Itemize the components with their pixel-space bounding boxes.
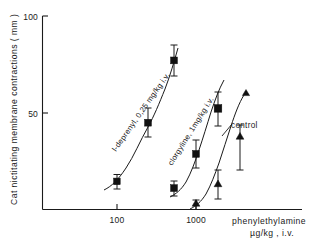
clorgyline-marker-3 [214,105,222,113]
clorgyline-point-3 [214,92,222,126]
control-point-4 [242,90,249,96]
x-axis-ticks: 100 1000 [110,204,206,225]
clorgyline-marker-2 [193,151,200,158]
control-marker-3 [236,133,244,140]
deprenyl-marker-3 [171,57,178,64]
series-clorgyline: clorgyline, 1mg/kg i.v. [166,80,224,197]
x-tick-label-100: 100 [110,215,125,225]
x-tick-label-1000: 1000 [186,215,206,225]
clorgyline-point-1 [171,181,178,196]
y-axis-ticks: 100 50 [23,12,48,119]
control-marker-2 [214,180,222,187]
control-marker-4 [242,90,249,96]
dose-response-chart: 100 50 100 1000 Cat nictitating membrane… [0,0,324,252]
clorgyline-series-label: clorgyline, 1mg/kg i.v. [166,95,216,167]
control-point-3 [236,125,244,170]
y-tick-label-100: 100 [23,12,38,22]
clorgyline-marker-1 [171,185,178,192]
clorgyline-point-2 [193,140,200,168]
x-axis-units: µg/kg , i.v. [250,228,294,238]
clorgyline-curve [170,80,224,197]
figure-container: 100 50 100 1000 Cat nictitating membrane… [0,0,324,252]
x-axis-title: phenylethylamine [232,216,306,226]
deprenyl-marker-2 [145,119,152,126]
control-series-label: control [231,121,258,130]
deprenyl-marker-1 [114,178,121,185]
y-axis-title: Cat nictitating membrane contractions ( … [9,14,19,205]
series-l-deprenyl: l-deprenyl, 0,25 mg/kg i.v. [104,45,178,190]
y-tick-label-50: 50 [28,109,38,119]
